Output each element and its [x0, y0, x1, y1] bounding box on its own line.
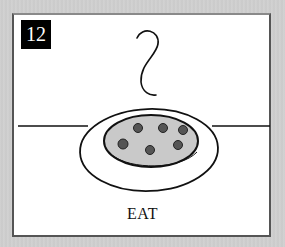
card-caption: EAT: [0, 205, 285, 223]
steam-icon: [137, 31, 158, 95]
food-icon: [104, 115, 198, 167]
